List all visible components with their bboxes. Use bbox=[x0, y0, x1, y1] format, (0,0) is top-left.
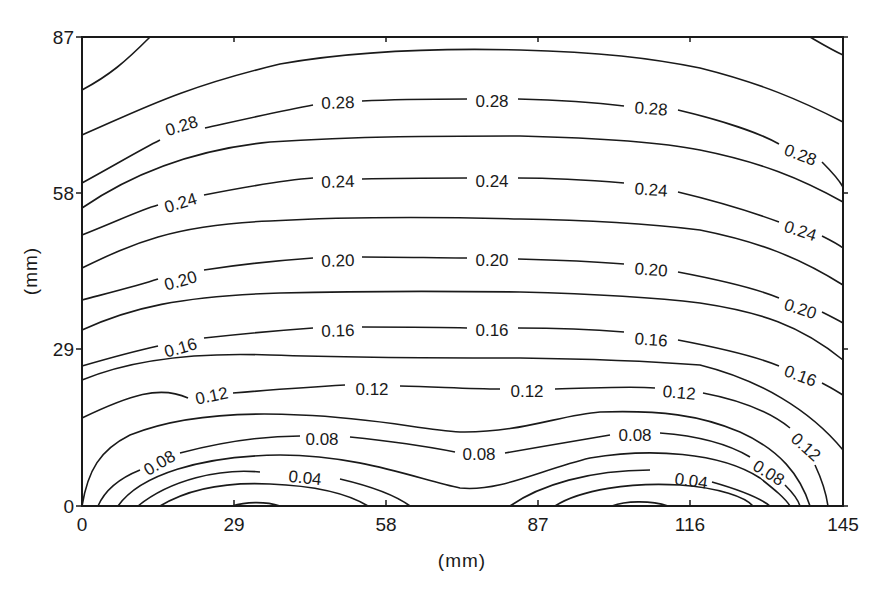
contour-label: 0.12 bbox=[662, 382, 697, 404]
contour-label: 0.20 bbox=[634, 259, 668, 280]
x-tick-label: 116 bbox=[675, 514, 705, 535]
y-tick-label: 0 bbox=[63, 496, 74, 517]
contour-label: 0.04 bbox=[673, 469, 708, 492]
contour-label: 0.12 bbox=[194, 383, 230, 408]
contour-label: 0.24 bbox=[475, 172, 508, 191]
contour-label: 0.28 bbox=[163, 112, 200, 140]
contour-label: 0.20 bbox=[782, 295, 819, 323]
contour-label: 0.08 bbox=[618, 426, 651, 445]
contour-label: 0.12 bbox=[355, 380, 388, 399]
contour-line bbox=[82, 257, 843, 323]
y-tick-label: 87 bbox=[53, 27, 74, 48]
contour-label: 0.28 bbox=[321, 93, 355, 113]
x-tick-label: 87 bbox=[527, 514, 548, 535]
contour-label: 0.08 bbox=[140, 447, 178, 480]
contour-label: 0.12 bbox=[787, 429, 824, 465]
contour-label: 0.24 bbox=[634, 179, 668, 200]
contour-labels: 0.280.280.280.280.280.240.240.240.240.24… bbox=[140, 92, 824, 492]
contour-label: 0.16 bbox=[162, 334, 199, 361]
contour-label: 0.20 bbox=[162, 267, 199, 294]
contour-label: 0.28 bbox=[782, 140, 820, 169]
contour-line bbox=[98, 433, 800, 506]
contour-label: 0.24 bbox=[782, 217, 819, 245]
contour-label: 0.28 bbox=[475, 92, 508, 111]
x-tick-label: 58 bbox=[375, 514, 396, 535]
contour-label: 0.16 bbox=[475, 321, 508, 340]
y-tick-label: 29 bbox=[53, 339, 74, 360]
contour-lines bbox=[82, 37, 843, 506]
contour-line bbox=[82, 327, 843, 395]
contour-label: 0.16 bbox=[782, 361, 820, 390]
contour-label: 0.16 bbox=[634, 329, 668, 350]
contour-label: 0.24 bbox=[321, 172, 355, 192]
x-tick-label: 145 bbox=[827, 514, 859, 535]
contour-chart: 0.280.280.280.280.280.240.240.240.240.24… bbox=[0, 0, 878, 594]
contour-label: 0.20 bbox=[321, 251, 355, 271]
y-axis-ticks: 0295887 bbox=[53, 27, 848, 517]
contour-line bbox=[82, 178, 843, 248]
x-tick-label: 0 bbox=[77, 514, 88, 535]
contour-label: 0.08 bbox=[305, 430, 338, 449]
contour-label: 0.24 bbox=[162, 189, 199, 217]
x-tick-label: 29 bbox=[223, 514, 244, 535]
contour-label: 0.04 bbox=[288, 467, 323, 489]
contour-label: 0.28 bbox=[634, 98, 668, 119]
x-axis-title: (mm) bbox=[438, 550, 486, 571]
plot-frame bbox=[82, 37, 843, 506]
contour-label: 0.16 bbox=[321, 321, 355, 341]
y-axis-title: (mm) bbox=[20, 247, 41, 295]
contour-line bbox=[82, 385, 828, 506]
contour-label: 0.12 bbox=[510, 382, 543, 401]
contour-label: 0.08 bbox=[462, 445, 495, 464]
contour-line bbox=[82, 99, 843, 187]
contour-line bbox=[810, 37, 843, 55]
contour-line bbox=[82, 37, 150, 90]
contour-label: 0.20 bbox=[475, 251, 508, 270]
y-tick-label: 58 bbox=[53, 183, 74, 204]
